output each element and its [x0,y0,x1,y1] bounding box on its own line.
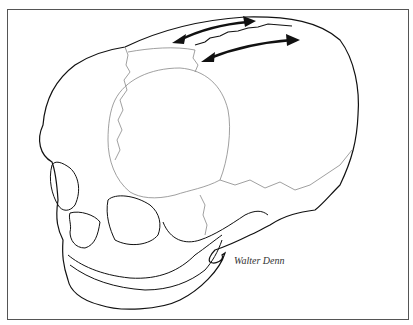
orbit-right [107,196,160,245]
skull-outline [40,17,359,309]
nasal-region [69,212,100,248]
lambdoid-suture [220,150,352,190]
mandible-line [70,240,222,290]
squamous-suture [200,195,207,235]
coronal-suture [115,47,130,160]
lower-double-arrow-icon [201,34,300,62]
zygomatic-arch [163,211,268,242]
artist-signature: Walter Denn [234,255,284,266]
anterior-fontanelle [128,48,198,72]
skull-illustration [0,0,413,325]
maxilla-line [68,235,222,278]
